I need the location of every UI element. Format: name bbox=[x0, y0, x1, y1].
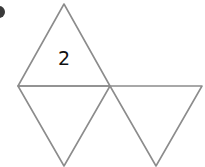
net-svg: 2 bbox=[0, 0, 205, 167]
net-edges bbox=[18, 4, 202, 166]
face-bottom-left bbox=[18, 86, 110, 166]
triangle-net-diagram: 2 bbox=[0, 0, 205, 167]
face-middle bbox=[64, 86, 156, 166]
bullet-marker bbox=[0, 6, 5, 18]
face-top-label: 2 bbox=[58, 47, 70, 69]
face-top bbox=[18, 4, 110, 86]
face-bottom-right bbox=[110, 86, 202, 166]
